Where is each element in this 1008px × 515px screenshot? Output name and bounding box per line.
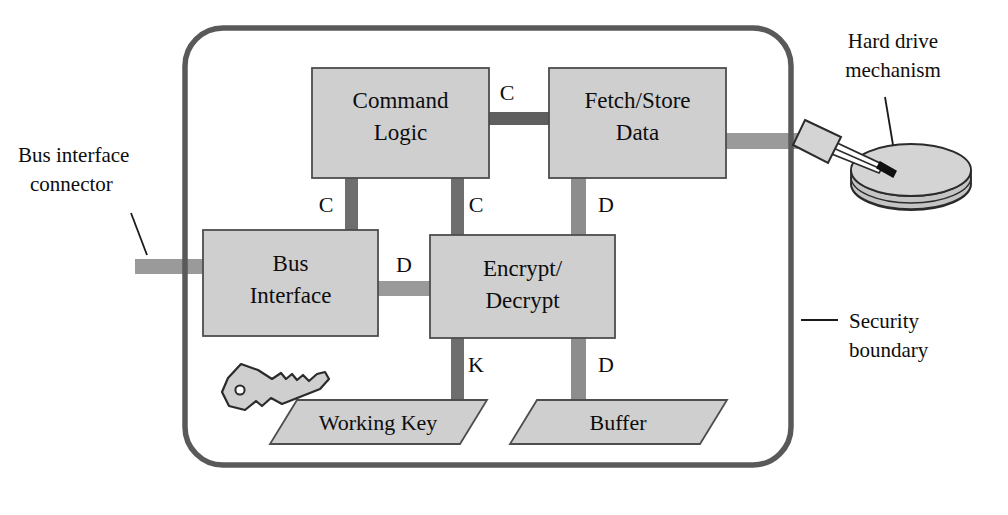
block-command-logic[interactable]: Command Logic bbox=[312, 68, 489, 178]
architecture-diagram: Command Logic Fetch/Store Data Bus Inter… bbox=[0, 0, 1008, 515]
callout-security-boundary: Security boundary bbox=[801, 309, 929, 362]
bus-to-encrypt-link bbox=[372, 281, 436, 296]
encrypt-to-buffer-link bbox=[571, 333, 586, 401]
block-fetch-store-data[interactable]: Fetch/Store Data bbox=[549, 68, 726, 178]
edge-label-command-to-bus: C bbox=[319, 192, 334, 217]
callout-hard-drive-mechanism: Hard drive mechanism bbox=[845, 29, 941, 145]
block-encrypt-decrypt-shape bbox=[430, 235, 615, 338]
edge-label-bus-to-encrypt: D bbox=[396, 252, 412, 277]
edge-label-fetch-to-encrypt: D bbox=[598, 192, 614, 217]
command-to-encrypt-link bbox=[451, 173, 464, 240]
callout-security-boundary-line1: Security bbox=[849, 309, 919, 333]
storage-working-key[interactable]: Working Key bbox=[270, 400, 487, 444]
diagram-canvas: Command Logic Fetch/Store Data Bus Inter… bbox=[0, 0, 1008, 515]
key-bow-hole bbox=[235, 385, 244, 394]
callout-bus-interface-connector-line2: connector bbox=[30, 172, 113, 196]
external-bus-stub bbox=[135, 259, 210, 274]
storage-buffer-label: Buffer bbox=[589, 410, 647, 435]
encrypt-to-key-link bbox=[451, 333, 464, 401]
callout-hard-drive-mechanism-leader bbox=[885, 97, 893, 145]
block-command-logic-line1: Command bbox=[353, 88, 449, 113]
block-encrypt-decrypt-line1: Encrypt/ bbox=[483, 256, 563, 281]
fetch-to-encrypt-link bbox=[571, 173, 586, 240]
block-bus-interface-line1: Bus bbox=[273, 251, 309, 276]
storage-working-key-label: Working Key bbox=[319, 410, 438, 435]
callout-bus-interface-connector-leader bbox=[131, 213, 147, 255]
block-fetch-store-data-line1: Fetch/Store bbox=[584, 88, 690, 113]
callout-hard-drive-mechanism-line2: mechanism bbox=[845, 58, 941, 82]
actuator-pivot-box bbox=[793, 120, 841, 163]
edge-label-command-to-encrypt: C bbox=[469, 192, 484, 217]
edge-label-encrypt-to-key: K bbox=[468, 352, 484, 377]
block-encrypt-decrypt-line2: Decrypt bbox=[485, 288, 560, 313]
callout-bus-interface-connector: Bus interface connector bbox=[18, 143, 147, 255]
command-to-fetch-link bbox=[484, 112, 554, 125]
callout-bus-interface-connector-line1: Bus interface bbox=[18, 143, 129, 167]
callout-hard-drive-mechanism-line1: Hard drive bbox=[848, 29, 938, 53]
edge-label-command-to-fetch: C bbox=[500, 80, 515, 105]
disk-platter-top bbox=[851, 144, 971, 196]
storage-buffer[interactable]: Buffer bbox=[510, 400, 727, 444]
hard-disk-platter-icon bbox=[851, 144, 971, 210]
block-fetch-store-data-line2: Data bbox=[616, 120, 659, 145]
command-to-bus-link bbox=[345, 173, 358, 235]
edge-label-encrypt-to-buffer: D bbox=[598, 352, 614, 377]
block-bus-interface-line2: Interface bbox=[250, 283, 332, 308]
block-command-logic-line2: Logic bbox=[374, 120, 428, 145]
block-encrypt-decrypt[interactable]: Encrypt/ Decrypt bbox=[430, 235, 615, 338]
callout-security-boundary-line2: boundary bbox=[849, 338, 929, 362]
block-bus-interface[interactable]: Bus Interface bbox=[203, 230, 378, 336]
